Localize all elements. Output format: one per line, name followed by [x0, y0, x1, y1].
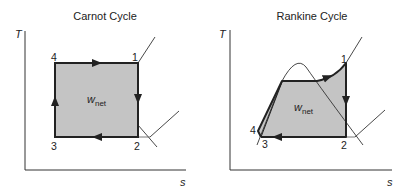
rankine-title: Rankine Cycle [277, 10, 348, 22]
rankine-point-3: 3 [262, 138, 268, 150]
rankine-s-label: s [387, 176, 393, 188]
rankine-isobar-line [355, 110, 385, 137]
carnot-point-1: 1 [132, 51, 138, 63]
carnot-diagram: Carnot Cycle T s 4 1 3 2 wnet [15, 10, 186, 188]
carnot-t-label: T [15, 28, 23, 40]
carnot-liquid-line [138, 125, 157, 147]
carnot-point-4: 4 [51, 51, 57, 63]
rankine-point-2: 2 [341, 139, 347, 151]
carnot-vapor-line [138, 37, 155, 63]
rankine-t-label: T [219, 28, 227, 40]
carnot-title: Carnot Cycle [73, 10, 137, 22]
rankine-diagram: Rankine Cycle T s 4 3 2 1 wnet [219, 10, 393, 188]
cycle-diagrams: Carnot Cycle T s 4 1 3 2 wnet Rankine Cy… [0, 0, 406, 195]
carnot-point-2: 2 [134, 140, 140, 152]
carnot-isobar-line [150, 111, 179, 137]
carnot-point-3: 3 [51, 140, 57, 152]
rankine-point-4: 4 [250, 124, 256, 136]
rankine-point-1: 1 [341, 53, 347, 65]
rankine-superheat-line [346, 37, 362, 63]
carnot-s-label: s [180, 176, 186, 188]
